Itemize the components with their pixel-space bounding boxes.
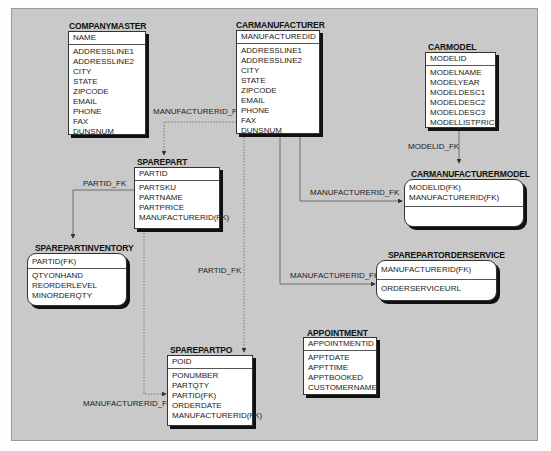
attribute-list: ORDERSERVICEURL	[377, 280, 496, 296]
attribute: MODELYEAR	[430, 78, 491, 88]
attribute-list: PONUMBER PARTQTY PARTID(FK) ORDERDATE MA…	[168, 369, 252, 423]
attribute: PHONE	[73, 107, 141, 117]
primary-key: POID	[168, 356, 252, 369]
entity-sparepartinventory[interactable]: PARTID(FK) QTYONHAND REORDERLEVEL MINORD…	[27, 253, 127, 306]
entity-companymaster[interactable]: NAME ADDRESSLINE1 ADDRESSLINE2 CITY STAT…	[68, 31, 146, 135]
attribute: MANUFACTURERID(FK)	[172, 411, 248, 421]
relationship-label: MODELID_FK	[408, 142, 459, 151]
attribute: MODELDESC1	[430, 88, 491, 98]
attribute: MINORDERQTY	[32, 291, 122, 301]
entity-title-companymaster: COMPANYMASTER	[69, 21, 146, 31]
primary-key: MANUFACTURERID(FK)	[377, 261, 496, 280]
attribute: FAX	[73, 117, 141, 127]
attribute: MODELLISTPRICE	[430, 118, 491, 128]
attribute: ORDERDATE	[172, 401, 248, 411]
relationship-label: MANUFACTURERID_FK	[290, 271, 379, 280]
attribute: APPTTIME	[308, 363, 372, 373]
attribute: MODELNAME	[430, 68, 491, 78]
attribute-list: ADDRESSLINE1 ADDRESSLINE2 CITY STATE ZIP…	[69, 45, 145, 139]
entity-appointment[interactable]: APPOINTMENTID APPTDATE APPTTIME APPTBOOK…	[303, 337, 377, 395]
attribute: ADDRESSLINE1	[73, 47, 141, 57]
attribute: APPTDATE	[308, 353, 372, 363]
attribute-list: PARTSKU PARTNAME PARTPRICE MANUFACTURERI…	[135, 181, 219, 225]
attribute-list: ADDRESSLINE1 ADDRESSLINE2 CITY STATE ZIP…	[237, 44, 319, 138]
entity-title-carmanufacturermodel: CARMANUFACTURERMODEL	[411, 169, 530, 179]
attribute: MODELDESC3	[430, 108, 491, 118]
primary-key: MANUFACTURERID(FK)	[409, 193, 519, 203]
attribute: PARTNAME	[139, 193, 215, 203]
attribute-list: MODELNAME MODELYEAR MODELDESC1 MODELDESC…	[426, 66, 495, 130]
attribute: REORDERLEVEL	[32, 281, 122, 291]
relationship-label: MANUFACTURERID_FK	[310, 188, 399, 197]
attribute: STATE	[73, 77, 141, 87]
entity-title-sparepartinventory: SPAREPARTINVENTORY	[35, 243, 133, 253]
attribute: ZIPCODE	[241, 86, 315, 96]
relationship-label: PARTID_FK	[83, 179, 126, 188]
attribute-list: QTYONHAND REORDERLEVEL MINORDERQTY	[28, 269, 126, 303]
entity-sparepartorderservice[interactable]: MANUFACTURERID(FK) ORDERSERVICEURL	[376, 260, 497, 301]
attribute: APPTBOOKED	[308, 373, 372, 383]
entity-title-carmanufacturer: CARMANUFACTURER	[236, 20, 325, 30]
entity-carmodel[interactable]: MODELID MODELNAME MODELYEAR MODELDESC1 M…	[425, 52, 496, 128]
attribute: DUNSNUM	[73, 127, 141, 137]
primary-key: MODELID	[426, 53, 495, 66]
attribute: DUNSNUM	[241, 126, 315, 136]
entity-title-carmodel: CARMODEL	[428, 42, 476, 52]
attribute: ADDRESSLINE1	[241, 46, 315, 56]
attribute: QTYONHAND	[32, 271, 122, 281]
entity-title-sparepartorderservice: SPAREPARTORDERSERVICE	[388, 250, 505, 260]
relationship-label: PARTID_FK	[198, 266, 241, 275]
attribute: ADDRESSLINE2	[241, 56, 315, 66]
primary-key-group: MODELID(FK) MANUFACTURERID(FK)	[405, 180, 523, 207]
entity-title-sparepartpo: SPAREPARTPO	[170, 345, 232, 355]
attribute: MANUFACTURERID(FK)	[139, 213, 215, 223]
attribute: ADDRESSLINE2	[73, 57, 141, 67]
attribute: STATE	[241, 76, 315, 86]
entity-title-sparepart: SPAREPART	[137, 157, 187, 167]
attribute: MODELDESC2	[430, 98, 491, 108]
entity-carmanufacturer[interactable]: MANUFACTUREDID ADDRESSLINE1 ADDRESSLINE2…	[236, 30, 320, 134]
entity-sparepart[interactable]: PARTID PARTSKU PARTNAME PARTPRICE MANUFA…	[134, 167, 220, 229]
primary-key: NAME	[69, 32, 145, 45]
primary-key: MANUFACTUREDID	[237, 31, 319, 44]
primary-key: APPOINTMENTID	[304, 338, 376, 351]
entity-carmanufacturermodel[interactable]: MODELID(FK) MANUFACTURERID(FK)	[404, 179, 524, 227]
primary-key: MODELID(FK)	[409, 183, 519, 193]
relationship-label: MANUFACTURERID_FK	[83, 399, 172, 408]
attribute-list: APPTDATE APPTTIME APPTBOOKED CUSTOMERNAM…	[304, 351, 376, 395]
attribute: ZIPCODE	[73, 87, 141, 97]
attribute: EMAIL	[73, 97, 141, 107]
attribute: PARTPRICE	[139, 203, 215, 213]
attribute: CITY	[73, 67, 141, 77]
entity-sparepartpo[interactable]: POID PONUMBER PARTQTY PARTID(FK) ORDERDA…	[167, 355, 253, 426]
attribute: PHONE	[241, 106, 315, 116]
attribute: CUSTOMERNAME	[308, 383, 372, 393]
attribute: PONUMBER	[172, 371, 248, 381]
primary-key: PARTID	[135, 168, 219, 181]
primary-key: PARTID(FK)	[28, 254, 126, 269]
attribute: ORDERSERVICEURL	[381, 284, 492, 294]
attribute: FAX	[241, 116, 315, 126]
attribute: PARTQTY	[172, 381, 248, 391]
relationship-label: MANUFACTURERID_FK	[153, 107, 242, 116]
attribute: PARTSKU	[139, 183, 215, 193]
attribute: EMAIL	[241, 96, 315, 106]
attribute: CITY	[241, 66, 315, 76]
attribute: PARTID(FK)	[172, 391, 248, 401]
